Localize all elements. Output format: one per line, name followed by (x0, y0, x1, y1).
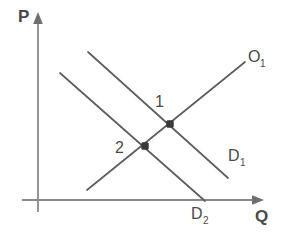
quantity-axis-arrowhead (252, 195, 264, 205)
demand-curve-d1-label: D (228, 147, 240, 164)
price-axis-arrowhead (33, 12, 43, 24)
demand-curve-d2-label-subscript: 2 (203, 215, 209, 226)
supply-demand-figure: P Q O 1 D 1 D 2 1 2 (0, 0, 286, 232)
equilibrium-point-2-label: 2 (115, 139, 124, 156)
price-axis-label: P (18, 7, 29, 26)
supply-curve-label: O (248, 48, 260, 65)
demand-curve-d2-label: D (191, 205, 203, 222)
equilibrium-point-1-dot (167, 121, 174, 128)
supply-curve-label-subscript: 1 (260, 58, 266, 69)
diagram-canvas: P Q O 1 D 1 D 2 1 2 (0, 0, 286, 232)
supply-curve-o1 (87, 62, 245, 190)
quantity-axis-label: Q (255, 207, 268, 226)
demand-curve-d1-label-subscript: 1 (240, 157, 246, 168)
equilibrium-point-2-dot (142, 143, 149, 150)
equilibrium-point-1-label: 1 (155, 93, 164, 110)
